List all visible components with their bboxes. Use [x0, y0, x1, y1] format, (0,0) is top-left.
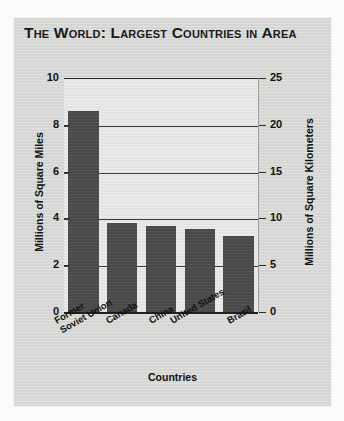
bar-slot	[219, 79, 258, 313]
y-tick-left	[64, 265, 70, 266]
y-axis-right-line	[258, 78, 259, 312]
y-axis-left-title: Millions of Square Miles	[33, 107, 45, 277]
chart-card: The World: Largest Countries in Area 024…	[14, 18, 331, 406]
category-slot: FormerSoviet Union	[64, 315, 103, 371]
y-tick-right	[259, 265, 266, 266]
y-tick-right	[259, 78, 266, 79]
y-tick-right	[259, 125, 266, 126]
y-tick-right	[259, 312, 266, 313]
y-axis-right-title: Millions of Square Kilometers	[303, 102, 315, 282]
y-tick-right	[259, 172, 266, 173]
chart-page: The World: Largest Countries in Area 024…	[0, 0, 344, 421]
y-tick-left	[64, 218, 70, 219]
bar[interactable]	[68, 111, 98, 313]
y-tick-left	[64, 78, 70, 79]
category-slot: Brazil	[219, 315, 258, 371]
chart-title: The World: Largest Countries in Area	[24, 24, 324, 43]
x-axis-category-labels: FormerSoviet UnionCanadaChinaUnited Stat…	[64, 315, 258, 371]
y-tick-label-left: 10	[33, 71, 59, 83]
y-tick-label-right: 5	[270, 258, 292, 270]
y-tick-label-right: 0	[270, 305, 292, 317]
y-tick-label-right: 20	[270, 118, 292, 130]
y-tick-left	[64, 125, 70, 126]
bar[interactable]	[223, 236, 253, 313]
x-axis-title: Countries	[14, 371, 331, 383]
bar-series	[64, 79, 258, 313]
bar-slot	[142, 79, 181, 313]
bar-slot	[180, 79, 219, 313]
bar[interactable]	[146, 226, 176, 313]
y-tick-label-right: 15	[270, 165, 292, 177]
bar-slot	[103, 79, 142, 313]
category-slot: United States	[180, 315, 219, 371]
bar-slot	[64, 79, 103, 313]
y-tick-left	[64, 172, 70, 173]
y-tick-label-right: 25	[270, 71, 292, 83]
y-tick-label-right: 10	[270, 211, 292, 223]
category-slot: Canada	[103, 315, 142, 371]
y-tick-right	[259, 218, 266, 219]
plot-area	[64, 78, 258, 313]
